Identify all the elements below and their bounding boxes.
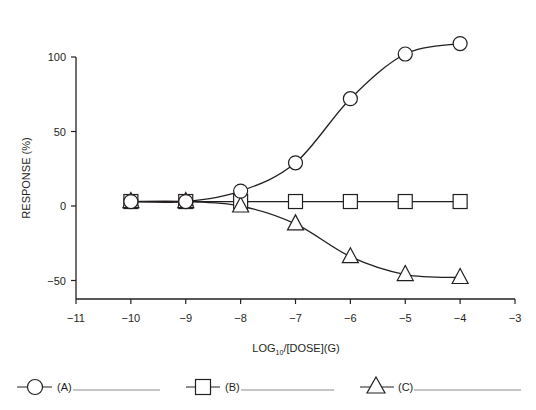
circle-marker-icon: [289, 156, 303, 170]
y-tick-label: 50: [54, 126, 66, 138]
legend: (A) (B) (C): [17, 377, 521, 395]
circle-marker-icon: [179, 195, 193, 209]
series-line-circle: [131, 44, 460, 203]
y-axis-label: RESPONSE (%): [20, 137, 32, 218]
x-tick-label: −6: [344, 312, 357, 324]
square-marker-icon: [343, 195, 357, 209]
x-tick-label: −3: [509, 312, 522, 324]
square-marker-icon: [289, 195, 303, 209]
y-tick-label: 0: [60, 200, 66, 212]
circle-marker-icon: [343, 92, 357, 106]
legend-item-c: (C): [360, 377, 521, 393]
square-marker-icon: [453, 195, 467, 209]
x-tick-label: −11: [67, 312, 85, 324]
x-tick-label: −8: [234, 312, 247, 324]
markers: [123, 37, 468, 284]
x-tick-label: −9: [179, 312, 192, 324]
legend-item-a: (A): [17, 380, 160, 395]
triangle-marker-icon: [452, 269, 468, 284]
x-tick-label: −10: [122, 312, 141, 324]
x-tick-label: −4: [454, 312, 467, 324]
dose-response-chart: 100500−50−11−10−9−8−7−6−5−4−3 RESPONSE (…: [0, 0, 536, 410]
legend-label-b: (B): [225, 381, 240, 393]
square-marker-icon: [196, 380, 211, 395]
y-tick-label: −50: [47, 275, 66, 287]
circle-marker-icon: [453, 37, 467, 51]
y-tick-label: 100: [48, 51, 66, 63]
axes: 100500−50−11−10−9−8−7−6−5−4−3: [47, 51, 521, 324]
triangle-marker-icon: [367, 377, 385, 393]
x-tick-label: −7: [289, 312, 302, 324]
legend-label-c: (C): [398, 381, 413, 393]
triangle-marker-icon: [288, 215, 304, 230]
triangle-marker-icon: [342, 248, 358, 263]
circle-marker-icon: [124, 195, 138, 209]
legend-label-a: (A): [57, 381, 72, 393]
legend-item-b: (B): [186, 380, 334, 395]
x-axis-label: LOG10/[DOSE](G): [252, 342, 339, 356]
x-tick-label: −5: [399, 312, 412, 324]
circle-marker-icon: [28, 380, 43, 395]
circle-marker-icon: [234, 184, 248, 198]
series-line-triangle: [131, 201, 460, 277]
square-marker-icon: [398, 195, 412, 209]
circle-marker-icon: [398, 47, 412, 61]
